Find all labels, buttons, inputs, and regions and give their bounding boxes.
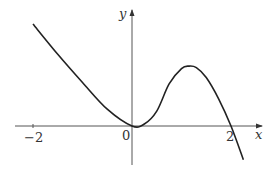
function-curve [33,24,243,160]
x-axis-label: x [255,128,262,141]
tick-label-2: 2 [226,130,234,143]
origin-label: 0 [122,129,130,142]
tick-label-neg2: −2 [24,131,43,144]
function-graph [0,0,276,173]
y-axis-label: y [119,7,126,20]
